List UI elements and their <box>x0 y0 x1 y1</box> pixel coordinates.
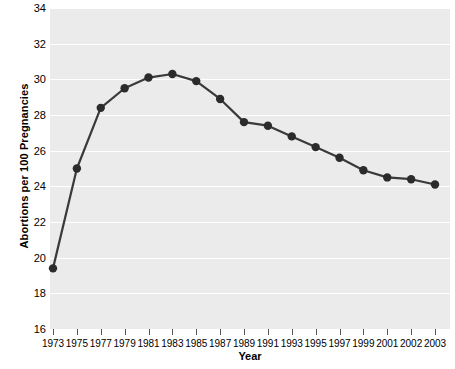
x-axis-title: Year <box>50 350 450 362</box>
data-point <box>97 104 105 112</box>
series-markers <box>49 70 439 273</box>
data-point <box>49 264 57 272</box>
data-point <box>335 154 343 162</box>
data-point <box>431 180 439 188</box>
data-point <box>240 118 248 126</box>
data-point <box>216 95 224 103</box>
data-point <box>192 77 200 85</box>
data-point <box>73 164 81 172</box>
data-point <box>383 173 391 181</box>
data-point <box>359 166 367 174</box>
y-axis-title: Abortions per 100 Pregnancies <box>18 36 30 296</box>
data-point <box>311 143 319 151</box>
data-point <box>407 175 415 183</box>
data-point <box>120 84 128 92</box>
series-line <box>53 74 435 268</box>
data-point <box>144 73 152 81</box>
chart-container: 16182022242628303234 1973197519771979198… <box>0 0 455 369</box>
data-point <box>168 70 176 78</box>
data-point <box>264 122 272 130</box>
data-point <box>288 132 296 140</box>
data-series-layer <box>0 0 455 369</box>
